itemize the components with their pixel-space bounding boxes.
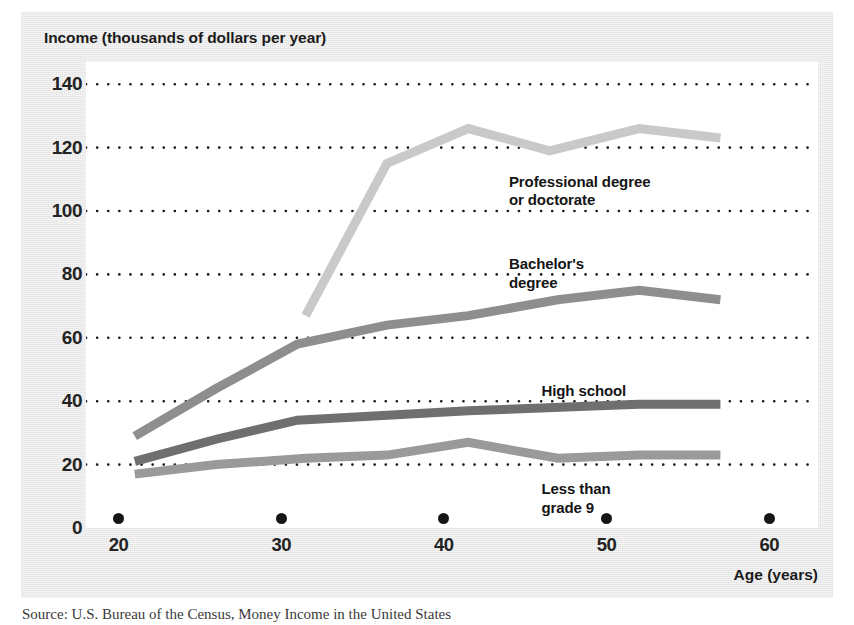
y-axis-title: Income (thousands of dollars per year) [44, 29, 326, 47]
y-tick-label-120: 120 [30, 137, 82, 159]
x-tick-label-30: 30 [251, 534, 311, 556]
series-line-3 [135, 442, 721, 474]
y-tick-label-20: 20 [30, 454, 82, 476]
y-tick-label-0: 0 [30, 517, 82, 539]
y-tick-label-100: 100 [30, 200, 82, 222]
series-annotation-2: High school [541, 382, 626, 400]
source-note: Source: U.S. Bureau of the Census, Money… [22, 606, 451, 623]
x-axis-dot-20 [113, 513, 124, 524]
x-tick-label-60: 60 [739, 534, 799, 556]
series-annotation-3: Less than grade 9 [541, 480, 610, 517]
x-tick-label-40: 40 [414, 534, 474, 556]
x-axis-dot-30 [276, 513, 287, 524]
series-annotation-0: Professional degree or doctorate [509, 173, 651, 210]
y-tick-label-40: 40 [30, 390, 82, 412]
series-annotation-1: Bachelor's degree [509, 255, 584, 292]
plot-area: Professional degree or doctorateBachelor… [86, 62, 818, 528]
x-axis-dot-60 [764, 513, 775, 524]
x-axis-tick-labels: 2030405060 [86, 534, 818, 564]
plot-svg [86, 62, 818, 528]
y-tick-label-60: 60 [30, 327, 82, 349]
y-axis-tick-labels: 020406080100120140 [26, 62, 82, 528]
x-tick-label-50: 50 [577, 534, 637, 556]
x-axis-title: Age (years) [734, 566, 818, 584]
y-tick-label-80: 80 [30, 263, 82, 285]
x-axis-dot-40 [438, 513, 449, 524]
y-tick-label-140: 140 [30, 73, 82, 95]
x-tick-label-20: 20 [89, 534, 149, 556]
figure-container: Income (thousands of dollars per year) P… [0, 0, 854, 625]
